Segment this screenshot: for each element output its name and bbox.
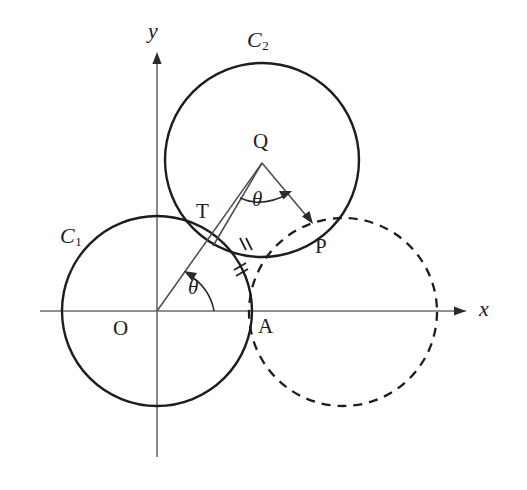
circle-dashed-rolled — [249, 218, 437, 406]
circle-c2-label-text: C — [247, 27, 262, 52]
point-q-label: Q — [253, 131, 268, 152]
ray-o-to-q — [157, 163, 262, 311]
angle-theta-q-label: θ — [252, 189, 262, 210]
circle-c2-label: C2 — [247, 29, 269, 52]
angle-arc-q-arrowhead — [279, 191, 292, 200]
x-axis-arrowhead — [454, 307, 466, 316]
y-axis-label: y — [148, 20, 158, 42]
angle-theta-origin-label: θ — [188, 277, 198, 298]
circle-c1-label-sub: 1 — [75, 234, 82, 249]
axes-group — [40, 52, 466, 457]
origin-label: O — [113, 318, 128, 339]
angle-arc-q — [240, 194, 288, 202]
y-axis-arrowhead — [152, 52, 161, 64]
circle-c2-label-sub: 2 — [262, 38, 269, 53]
point-a-label: A — [258, 316, 273, 337]
circle-c2 — [165, 63, 359, 257]
circle-c1-label: C1 — [60, 225, 82, 248]
point-p-label: P — [315, 236, 327, 257]
tick-mark-arc-c2 — [240, 238, 252, 250]
circle-c1-label-text: C — [60, 223, 75, 248]
point-t-label: T — [196, 201, 209, 222]
x-axis-label: x — [479, 298, 489, 320]
tick-mark-arc-c1 — [234, 263, 248, 276]
geometry-figure: y x O C1 C2 Q T P A θ θ — [0, 0, 527, 490]
